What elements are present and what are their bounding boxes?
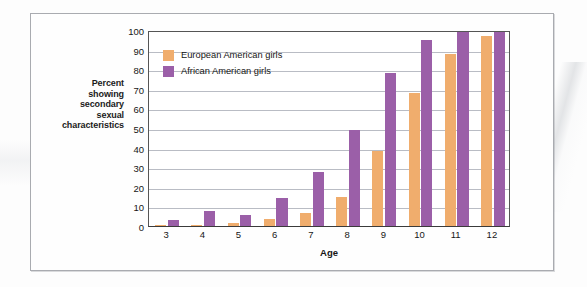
bar <box>494 31 505 226</box>
bar <box>421 40 432 226</box>
bar-group <box>372 32 396 226</box>
bar <box>191 225 202 226</box>
y-axis-tick-label: 70 <box>114 84 144 95</box>
legend-label-african-american: African American girls <box>181 66 271 76</box>
bar-group <box>300 32 324 226</box>
bar <box>300 213 311 226</box>
bar <box>264 219 275 226</box>
bar <box>445 54 456 226</box>
legend-swatch-icon-african-american <box>163 66 174 77</box>
bar-group <box>445 32 469 226</box>
bar-group <box>409 32 433 226</box>
bar <box>385 73 396 226</box>
legend-item-african-american: African American girls <box>163 65 282 77</box>
bar <box>349 130 360 226</box>
bar <box>228 223 239 226</box>
y-axis-tick-label: 40 <box>114 143 144 154</box>
y-axis-tick-label: 60 <box>114 104 144 115</box>
y-axis-tick-label: 20 <box>114 182 144 193</box>
x-axis-tick-label: 9 <box>381 229 386 240</box>
y-axis-tick-label: 0 <box>114 222 144 233</box>
x-axis-tick-label: 6 <box>272 229 277 240</box>
legend-item-european-american: European American girls <box>163 49 282 61</box>
bar <box>313 172 324 226</box>
y-axis-tick-label: 80 <box>114 65 144 76</box>
x-axis-tick-label: 4 <box>200 229 205 240</box>
bar <box>372 151 383 226</box>
plot-wrapper: European American girls African American… <box>148 31 510 227</box>
bar <box>168 220 179 226</box>
bar <box>204 211 215 226</box>
plot-area: European American girls African American… <box>148 31 510 227</box>
bar <box>276 198 287 226</box>
y-axis-tick-label: 10 <box>114 202 144 213</box>
bar <box>481 36 492 226</box>
x-axis-tick-label: 8 <box>344 229 349 240</box>
chart-legend: European American girls African American… <box>163 49 282 81</box>
x-axis-tick-label: 5 <box>236 229 241 240</box>
bar <box>409 93 420 226</box>
x-axis-tick-label: 3 <box>163 229 168 240</box>
bar-group <box>336 32 360 226</box>
figure-root: Percentshowingsecondarysexualcharacteris… <box>0 0 587 287</box>
x-axis-tick-labels: 3456789101112 <box>148 229 510 245</box>
y-axis-tick-label: 90 <box>114 45 144 56</box>
x-axis-tick-label: 12 <box>487 229 498 240</box>
bar <box>155 225 166 226</box>
legend-label-european-american: European American girls <box>181 50 282 60</box>
bar <box>457 32 468 226</box>
x-axis-tick-label: 10 <box>414 229 425 240</box>
x-axis-title: Age <box>148 247 510 258</box>
bar <box>336 197 347 226</box>
bar <box>240 215 251 226</box>
y-axis-tick-label: 100 <box>114 26 144 37</box>
y-axis-tick-labels: 0102030405060708090100 <box>110 31 144 227</box>
y-axis-tick-label: 30 <box>114 163 144 174</box>
x-axis-tick-label: 7 <box>308 229 313 240</box>
bar-group <box>481 32 505 226</box>
y-axis-tick-label: 50 <box>114 124 144 135</box>
x-axis-tick-label: 11 <box>451 229 461 240</box>
legend-swatch-icon-european-american <box>163 50 174 61</box>
